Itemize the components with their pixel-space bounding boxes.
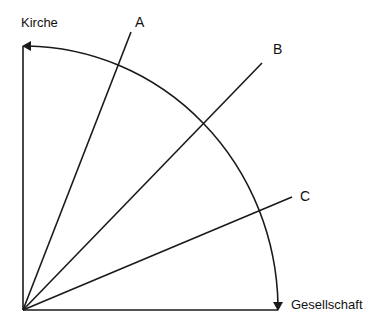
ray-label-c: C bbox=[300, 188, 310, 204]
ray-label-a: A bbox=[135, 14, 144, 30]
axis-label-gesellschaft: Gesellschaft bbox=[291, 297, 363, 312]
axis-label-kirche: Kirche bbox=[21, 15, 58, 30]
ray-c bbox=[23, 197, 292, 310]
ray-a bbox=[23, 32, 131, 310]
ray-b bbox=[23, 63, 262, 310]
diagram-canvas bbox=[0, 0, 379, 326]
ray-label-b: B bbox=[273, 41, 282, 57]
